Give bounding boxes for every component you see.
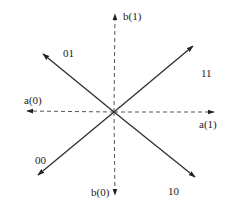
vector-label-v11: 11 xyxy=(201,67,212,79)
vector-arrow-v11 xyxy=(114,46,193,112)
vector-arrow-v00 xyxy=(38,112,114,175)
vector-label-v01: 01 xyxy=(63,47,74,59)
constellation-diagram: b(1)b(0)a(0)a(1)01110010 xyxy=(0,0,229,211)
vector-label-v10: 10 xyxy=(168,185,180,197)
axis-label-a1: a(1) xyxy=(199,118,217,131)
axes xyxy=(27,14,214,195)
vector-label-v00: 00 xyxy=(35,154,47,166)
vector-arrow-v01 xyxy=(43,54,114,112)
axis-arrow-b1 xyxy=(114,14,115,112)
axis-label-a0: a(0) xyxy=(24,94,42,107)
vector-arrow-v10 xyxy=(114,112,195,177)
axis-label-b1: b(1) xyxy=(123,10,142,23)
axis-arrow-a0 xyxy=(27,111,114,112)
axis-arrow-b0 xyxy=(114,112,115,195)
axis-label-b0: b(0) xyxy=(91,186,110,199)
